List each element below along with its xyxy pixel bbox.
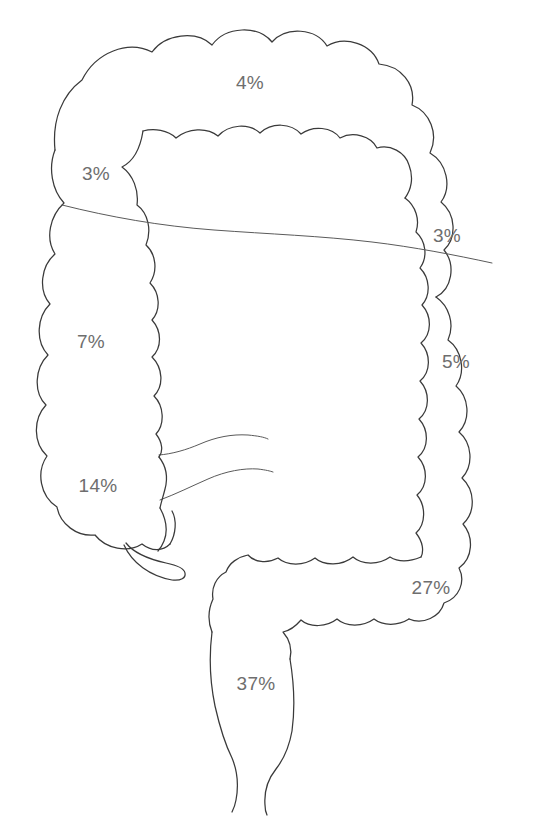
label-sigmoid-colon: 27%	[412, 577, 451, 599]
cecum-lower-medial	[158, 508, 166, 551]
ileum-lower-line	[160, 469, 273, 500]
ascending-colon-medial-border	[122, 131, 162, 457]
transverse-colon-inferior-border	[143, 125, 412, 198]
colon-diagram: 4% 3% 3% 7% 5% 14% 27% 37%	[0, 0, 545, 836]
sigmoid-colon-inferior-border	[283, 619, 409, 659]
label-rectum: 37%	[237, 673, 276, 695]
label-hepatic-flexure: 3%	[82, 163, 110, 185]
label-splenic-flexure: 3%	[433, 225, 461, 247]
descending-colon-lateral-border	[409, 297, 472, 621]
label-transverse-colon: 4%	[236, 72, 264, 94]
cecum-inferior-border	[170, 511, 175, 544]
mesocolon-landmark-line	[62, 205, 492, 263]
transverse-colon-superior-border	[54, 30, 453, 297]
appendix	[124, 543, 185, 580]
label-ascending-colon: 7%	[77, 331, 105, 353]
descending-colon-medial-border	[405, 198, 429, 557]
label-descending-colon: 5%	[442, 351, 470, 373]
colon-outline-svg	[0, 0, 545, 836]
rectum-left-wall	[210, 632, 237, 812]
label-cecum: 14%	[79, 475, 118, 497]
sigmoid-colon-superior-border	[209, 555, 421, 632]
ileum-upper-line	[159, 435, 268, 455]
